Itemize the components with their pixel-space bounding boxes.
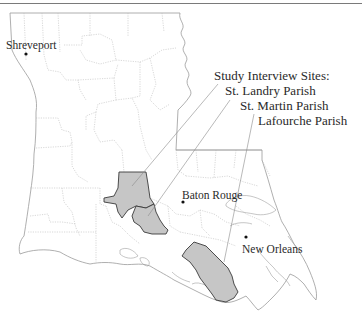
legend-item-lafourche: Lafourche Parish [258,114,347,127]
state-outline [10,13,317,310]
legend-item-st-landry: St. Landry Parish [225,84,316,97]
shreveport-dot [24,52,27,55]
city-label-baton-rouge: Baton Rouge [182,190,242,202]
city-label-new-orleans: New Orleans [242,244,302,256]
city-label-shreveport: Shreveport [6,40,56,52]
legend-item-st-martin: St. Martin Parish [240,99,328,112]
legend-title: Study Interview Sites: [214,69,330,82]
new-orleans-dot [244,235,247,238]
